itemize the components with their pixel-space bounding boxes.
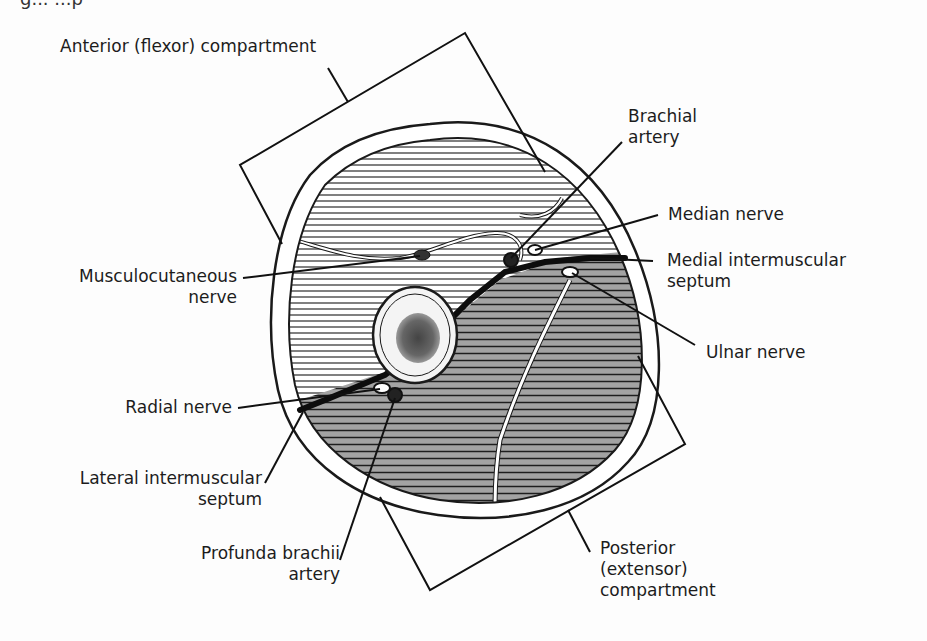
label-medial-septum-line1: Medial intermuscular bbox=[667, 250, 846, 271]
label-median-nerve: Median nerve bbox=[668, 204, 784, 225]
label-ulnar-nerve: Ulnar nerve bbox=[706, 342, 806, 363]
brachial-artery-dot bbox=[504, 253, 518, 267]
musculocutaneous-nerve-dot bbox=[414, 250, 430, 260]
label-medial-intermuscular-septum: Medial intermuscular septum bbox=[667, 250, 846, 292]
label-radial-nerve: Radial nerve bbox=[60, 397, 232, 418]
label-posterior-line3: compartment bbox=[600, 580, 716, 601]
label-profunda-line1: Profunda brachii bbox=[140, 543, 340, 564]
label-posterior-compartment: Posterior (extensor) compartment bbox=[600, 538, 716, 601]
label-medial-septum-line2: septum bbox=[667, 271, 846, 292]
label-brachial-artery: Brachial artery bbox=[628, 106, 697, 148]
label-musculocutaneous-nerve: Musculocutaneous nerve bbox=[30, 266, 237, 308]
label-musculo-line2: nerve bbox=[30, 287, 237, 308]
bone-marrow bbox=[396, 313, 440, 363]
label-musculo-line1: Musculocutaneous bbox=[30, 266, 237, 287]
radial-nerve-dot bbox=[374, 383, 390, 393]
label-anterior-compartment: Anterior (flexor) compartment bbox=[60, 36, 316, 57]
label-profunda-brachii-artery: Profunda brachii artery bbox=[140, 543, 340, 585]
label-brachial-artery-line2: artery bbox=[628, 127, 697, 148]
label-profunda-line2: artery bbox=[140, 564, 340, 585]
label-lateral-intermuscular-septum: Lateral intermuscular septum bbox=[30, 468, 262, 510]
label-lateral-septum-line1: Lateral intermuscular bbox=[30, 468, 262, 489]
label-brachial-artery-line1: Brachial bbox=[628, 106, 697, 127]
label-posterior-line1: Posterior bbox=[600, 538, 716, 559]
label-posterior-line2: (extensor) bbox=[600, 559, 716, 580]
caption-fragment: g... ...p bbox=[20, 0, 83, 9]
label-lateral-septum-line2: septum bbox=[30, 489, 262, 510]
